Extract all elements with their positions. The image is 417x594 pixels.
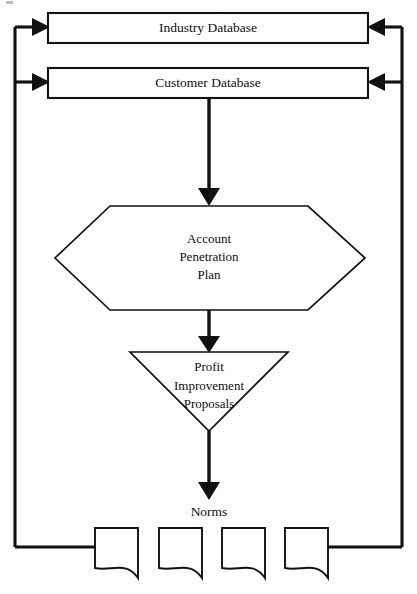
account-penetration-plan-label-line3: Plan: [197, 267, 221, 282]
flowchart-canvas: Industry Database Customer Database Acco…: [0, 0, 417, 594]
norms-label: Norms: [191, 504, 228, 519]
account-penetration-plan-label-line1: Account: [187, 231, 231, 246]
account-penetration-plan-label-line2: Penetration: [179, 249, 239, 264]
customer-database-label: Customer Database: [155, 75, 260, 90]
arrowhead-to-plan: [198, 188, 220, 206]
profit-improvement-proposals-label-line3: Proposals: [184, 396, 235, 411]
document-shape-1[interactable]: [95, 528, 138, 578]
scan-artifact: [6, 1, 13, 4]
arrowhead-to-proposals: [198, 336, 220, 353]
document-shape-4[interactable]: [285, 528, 328, 578]
profit-improvement-proposals-label-line1: Profit: [194, 359, 224, 374]
arrowhead-to-norms: [198, 482, 220, 500]
document-shape-3[interactable]: [222, 528, 265, 578]
arrowhead-into-customer-right: [367, 73, 385, 91]
flowchart-svg: Industry Database Customer Database Acco…: [0, 0, 417, 594]
industry-database-label: Industry Database: [159, 20, 257, 35]
document-shape-2[interactable]: [159, 528, 202, 578]
profit-improvement-proposals-label-line2: Improvement: [174, 378, 244, 393]
arrowhead-into-industry-right: [367, 18, 385, 36]
